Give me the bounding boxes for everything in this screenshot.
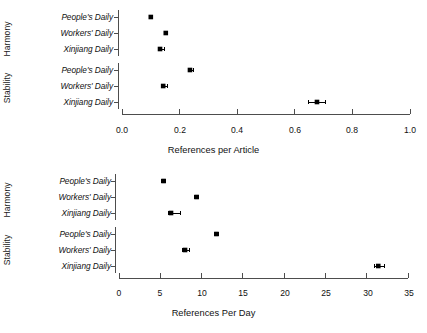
xtick-label-bottom-1: 5 [147,288,173,298]
group-label-stability-bottom: Stability [2,229,12,271]
category-label-bottom-harmony-peoples: People's Daily [28,176,111,186]
category-label-top-stability-workers: Workers' Daily [30,81,113,91]
xtick-label-bottom-5: 25 [313,288,339,298]
category-label-bottom-harmony-workers: Workers' Daily [28,192,111,202]
xtick-label-bottom-0: 0 [106,288,132,298]
category-label-bottom-stability-xinjiang: Xinjiang Daily [28,261,111,271]
group-label-harmony-top: Harmony [2,19,12,59]
group-label-stability-top: Stability [2,67,12,109]
chart-panel-references-per-day: Harmony Stability People's Daily Workers… [0,167,427,333]
axis-title-references-per-day: References Per Day [0,308,427,318]
xtick-label-bottom-7: 35 [396,288,422,298]
category-label-bottom-stability-peoples: People's Daily [28,229,111,239]
xtick-label-top-1: 0.2 [167,125,193,135]
xtick-label-top-5: 1.0 [397,125,423,135]
axis-title-references-per-article: References per Article [0,145,427,155]
xtick-label-bottom-2: 10 [189,288,215,298]
category-label-top-harmony-workers: Workers' Daily [30,28,113,38]
category-label-top-harmony-peoples: People's Daily [30,12,113,22]
category-label-top-stability-xinjiang: Xinjiang Daily [30,97,113,107]
xtick-label-bottom-3: 15 [230,288,256,298]
xtick-label-top-2: 0.4 [224,125,250,135]
category-label-top-harmony-xinjiang: Xinjiang Daily [30,44,113,54]
figure-root: Harmony Stability People's Daily Workers… [0,0,427,333]
xtick-label-top-4: 0.8 [339,125,365,135]
xtick-label-bottom-4: 20 [272,288,298,298]
chart-panel-references-per-article: Harmony Stability People's Daily Workers… [0,0,427,166]
group-label-harmony-bottom: Harmony [2,180,12,220]
xtick-label-top-0: 0.0 [109,125,135,135]
category-label-bottom-stability-workers: Workers' Daily [28,245,111,255]
category-label-top-stability-peoples: People's Daily [30,65,113,75]
category-label-bottom-harmony-xinjiang: Xinjiang Daily [28,208,111,218]
xtick-label-top-3: 0.6 [282,125,308,135]
xtick-label-bottom-6: 30 [355,288,381,298]
